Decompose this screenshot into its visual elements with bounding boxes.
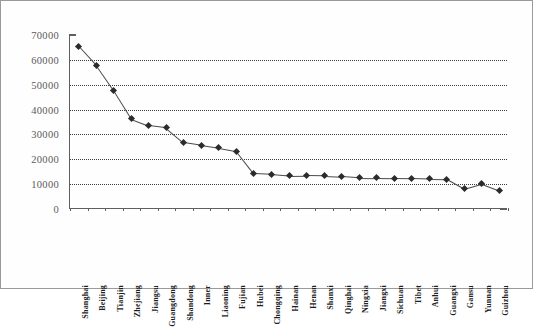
x-axis-label: Beijing [98,285,107,311]
data-point-marker [338,173,345,180]
data-point-marker [198,142,205,149]
data-point-marker [285,172,292,179]
data-point-marker [408,175,415,182]
x-axis-tick [508,208,509,211]
gridline [70,159,507,160]
x-axis-label: Yunnan [484,285,493,313]
x-axis-label: Shanghai [81,285,90,319]
gridline [70,60,507,61]
y-axis-tick-label: 20000 [31,154,59,165]
x-axis-label: Fujian [238,285,247,309]
line-segment [113,91,132,120]
data-point-marker [268,171,275,178]
x-axis-label: Guangxi [449,285,458,316]
x-axis-label: Guizhou [501,285,510,316]
x-axis-label: Liaoning [221,285,230,317]
y-axis-tick-labels: 700006000050000400003000020000100000 [1,1,65,290]
data-point-marker [356,174,363,181]
data-point-marker [461,185,468,192]
data-point-marker [180,139,187,146]
data-point-marker [303,172,310,179]
data-point-marker [145,122,152,129]
x-axis-label: Guangdong [168,285,177,327]
data-point-marker [496,187,503,194]
x-axis-label: Hainan [291,285,300,312]
x-axis-label: Jiangsu [151,285,160,313]
data-point-marker [391,175,398,182]
x-axis-label: Tianjin [116,285,125,312]
y-axis-tick-label: 40000 [31,104,59,115]
y-axis-tick-label: 0 [53,204,59,215]
y-axis-tick-label: 10000 [31,179,59,190]
data-point-marker [373,174,380,181]
x-axis-label: Sichuan [396,285,405,314]
data-point-marker [320,172,327,179]
x-axis-label: Shandong [186,285,195,321]
x-axis-category-labels: ShanghaiBeijingTianjinZhejiangJiangsuGua… [69,211,507,290]
x-axis-label: Qinghai [344,285,353,314]
x-axis-label: Henan [309,285,318,309]
x-axis-label: Hubei [256,285,265,307]
gridline [70,85,507,86]
y-axis-tick-label: 60000 [31,54,59,65]
x-axis-label: Chongqing [273,285,282,325]
x-axis-label: Anhui [431,285,440,307]
y-axis-tick-label: 70000 [31,30,59,41]
y-axis-tick-label: 30000 [31,129,59,140]
gridline [70,110,507,111]
gridline [70,184,507,185]
data-point-marker [215,144,222,151]
y-axis-tick-label: 50000 [31,79,59,90]
x-axis-label: Ningxia [361,285,370,313]
plot-area [69,35,507,209]
data-point-marker [250,170,257,177]
x-axis-label: Inner [203,285,212,305]
x-axis-label: Tibet [414,285,423,304]
x-axis-label: Shanxi [326,285,335,310]
x-axis-label: Jiangxi [379,285,388,311]
gridline [70,134,507,135]
x-axis-label: Gansu [466,285,475,308]
x-axis-label: Zhejiang [133,285,142,317]
data-point-marker [426,175,433,182]
